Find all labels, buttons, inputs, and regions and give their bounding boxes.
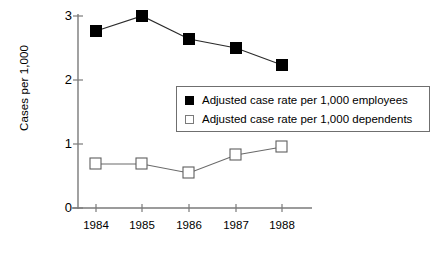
chart-container: Cases per 1,000 3 2 1 0 [0,0,446,255]
x-tick-label-1987: 1987 [213,219,259,231]
data-point-employees-1986 [183,33,195,45]
data-point-dependents-1984 [90,158,101,169]
data-point-employees-1987 [230,42,242,54]
filled-square-marker-icon [185,96,194,105]
open-square-marker-icon [185,115,194,124]
data-point-employees-1984 [90,25,102,37]
x-tick-label-1988: 1988 [259,219,305,231]
x-tick-label-1985: 1985 [119,219,165,231]
data-point-employees-1985 [136,10,148,22]
legend: Adjusted case rate per 1,000 employees A… [176,86,430,132]
data-point-dependents-1986 [183,167,194,178]
legend-entry-dependents: Adjusted case rate per 1,000 dependents [185,110,412,128]
data-point-employees-1988 [276,59,288,71]
x-tick-label-1984: 1984 [73,219,119,231]
legend-label-dependents: Adjusted case rate per 1,000 dependents [202,113,412,125]
legend-entry-employees: Adjusted case rate per 1,000 employees [185,91,408,109]
series-dependents [90,141,287,178]
series-employees [90,10,288,71]
x-tick-label-1986: 1986 [166,219,212,231]
data-point-dependents-1988 [276,141,287,152]
data-point-dependents-1987 [230,149,241,160]
legend-label-employees: Adjusted case rate per 1,000 employees [202,94,408,106]
data-point-dependents-1985 [136,158,147,169]
